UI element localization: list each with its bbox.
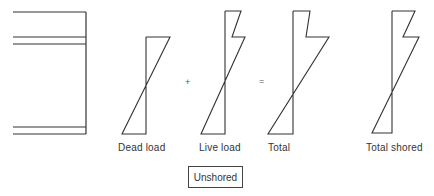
live-load-label: Live load (199, 142, 241, 153)
unshored-caption-box: Unshored (188, 166, 243, 188)
dead-load-label: Dead load (118, 142, 165, 153)
dead-load-stress-diagram (122, 37, 170, 134)
total-shored-label: Total shored (366, 142, 423, 153)
beam-cross-section (13, 12, 86, 134)
total-label: Total (268, 142, 290, 153)
plus-operator: + (185, 77, 190, 87)
live-load-stress-diagram (201, 11, 245, 134)
total-stress-diagram (268, 11, 329, 134)
unshored-caption-text: Unshored (194, 172, 237, 183)
total-shored-stress-diagram (372, 11, 419, 133)
equals-operator: = (259, 76, 264, 86)
